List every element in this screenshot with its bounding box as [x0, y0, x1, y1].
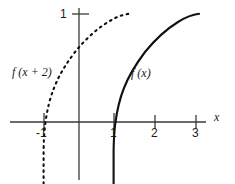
x-tick-label-1: 1: [110, 126, 117, 140]
x-axis-label: x: [214, 110, 219, 125]
y-tick-label-1: 1: [60, 7, 67, 21]
x-tick-label-2: 2: [151, 126, 158, 140]
curve-f-x-plus-2: [44, 14, 129, 184]
curve-label-f-x: f (x): [131, 66, 151, 81]
curve-label-f-x-plus-2: f (x + 2): [12, 65, 52, 80]
function-graph-figure: 1 -1 1 2 3 x f (x + 2) f (x): [0, 0, 235, 184]
x-tick-label-neg1: -1: [36, 126, 47, 140]
plot-canvas: [0, 0, 235, 184]
x-tick-label-3: 3: [192, 126, 199, 140]
curve-f-x: [114, 14, 199, 184]
